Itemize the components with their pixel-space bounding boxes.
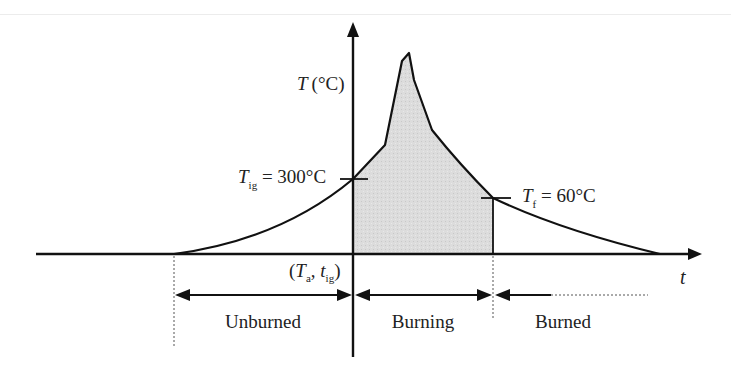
ignition-temperature-label: Tig = 300°C xyxy=(238,166,326,191)
unburned-span-arrow xyxy=(175,289,352,301)
y-axis-label: T(°C) xyxy=(297,73,345,95)
temperature-time-diagram: T(°C) t (Ta, tig) Tig = 300°C Tf = 60°C … xyxy=(0,0,731,375)
y-axis-arrowhead-icon xyxy=(347,22,359,37)
burning-span-arrow xyxy=(355,289,492,301)
burning-shaded-area xyxy=(353,53,493,254)
region-label-burned: Burned xyxy=(535,311,591,332)
region-label-burning: Burning xyxy=(392,311,455,332)
region-label-unburned: Unburned xyxy=(225,311,301,332)
origin-label: (Ta, tig) xyxy=(289,260,340,284)
x-axis-arrowhead-icon xyxy=(688,248,702,260)
final-temperature-label: Tf = 60°C xyxy=(522,185,596,210)
burned-span-arrow xyxy=(495,289,648,301)
x-axis-label: t xyxy=(680,266,686,288)
